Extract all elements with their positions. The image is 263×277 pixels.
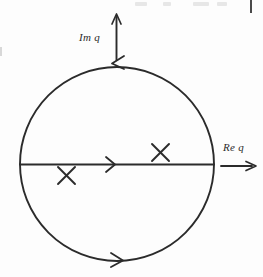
contour-diagram	[0, 0, 263, 277]
figure-canvas: Im q Re q	[0, 0, 263, 277]
imaginary-axis-label: Im q	[79, 31, 100, 43]
pole-marker-upper-right	[152, 144, 169, 161]
pole-marker-lower-left	[58, 167, 75, 184]
real-axis-label: Re q	[223, 141, 244, 153]
